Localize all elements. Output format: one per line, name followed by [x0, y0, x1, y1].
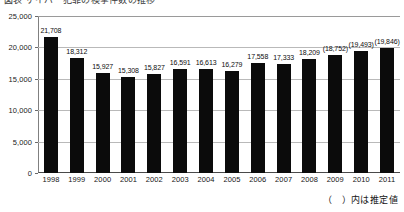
bar-slot: 16,613: [193, 16, 219, 173]
bar: [199, 69, 213, 173]
bar-value-label: 16,613: [196, 59, 217, 66]
bar-value-label: 16,591: [170, 59, 191, 66]
x-tick-label: 2004: [198, 175, 215, 184]
bar-value-label: 18,312: [66, 48, 87, 55]
bar-value-label: 16,279: [222, 61, 243, 68]
x-tick-label: 2009: [327, 175, 344, 184]
bar-slot: 17,558: [245, 16, 271, 173]
bar-value-label: (19,493): [349, 41, 374, 48]
x-tick-label: 2001: [120, 175, 137, 184]
bar-value-label: 15,827: [144, 64, 165, 71]
x-tick-label: 1999: [68, 175, 85, 184]
x-tick-label: 2007: [275, 175, 292, 184]
bar-slot: (19,493): [348, 16, 374, 173]
y-tick-label: 5,000: [0, 137, 32, 146]
x-tick-label: 2008: [301, 175, 318, 184]
x-axis-ticks: 1998199920002001200220032004200520062007…: [38, 175, 400, 189]
bar-value-label: 15,308: [118, 67, 139, 74]
bar-value-label: 18,209: [299, 49, 320, 56]
chart-title: 図表 サイバー犯罪の検挙件数の推移: [4, 0, 156, 6]
bar: [70, 58, 84, 173]
bar: [328, 55, 342, 173]
bar-value-label: (18,752): [323, 45, 348, 52]
bar-slot: 18,209: [297, 16, 323, 173]
bar-slot: 15,827: [141, 16, 167, 173]
bar: [302, 59, 316, 173]
bar-slot: 21,708: [38, 16, 64, 173]
chart-footnote: （ ）内は推定値: [323, 193, 398, 206]
chart-title-strip: 図表 サイバー犯罪の検挙件数の推移: [0, 0, 404, 7]
plot-area: 05,00010,00015,00020,00025,000 21,70818,…: [38, 16, 400, 173]
bar-series: 21,70818,31215,92715,30815,82716,59116,6…: [38, 16, 400, 173]
bar: [173, 69, 187, 173]
x-tick-label: 2006: [249, 175, 266, 184]
bar: [225, 71, 239, 173]
x-tick-label: 2000: [94, 175, 111, 184]
bar-value-label: 17,333: [273, 54, 294, 61]
bar-slot: 16,591: [167, 16, 193, 173]
bar: [44, 37, 58, 173]
bar: [147, 74, 161, 173]
bar-slot: 15,308: [116, 16, 142, 173]
bar: [354, 51, 368, 173]
x-tick-label: 2002: [146, 175, 163, 184]
x-tick-label: 2005: [223, 175, 240, 184]
bar: [96, 73, 110, 173]
y-tick-mark: [35, 173, 38, 174]
bar: [277, 64, 291, 173]
bar-slot: (19,846): [374, 16, 400, 173]
y-tick-label: 15,000: [0, 74, 32, 83]
bar: [380, 48, 394, 173]
bar-slot: 17,333: [271, 16, 297, 173]
bar: [121, 77, 135, 173]
bar-value-label: 15,927: [92, 63, 113, 70]
bar-slot: 18,312: [64, 16, 90, 173]
y-tick-label: 0: [0, 169, 32, 178]
x-tick-label: 1998: [42, 175, 59, 184]
bar-slot: 15,927: [90, 16, 116, 173]
x-tick-label: 2003: [172, 175, 189, 184]
bar-slot: 16,279: [219, 16, 245, 173]
bar-value-label: (19,846): [374, 38, 399, 45]
bar: [251, 63, 265, 173]
y-tick-label: 10,000: [0, 106, 32, 115]
bar-value-label: 17,558: [247, 53, 268, 60]
x-tick-label: 2011: [379, 175, 396, 184]
y-tick-label: 20,000: [0, 43, 32, 52]
bar-chart: 図表 サイバー犯罪の検挙件数の推移 05,00010,00015,00020,0…: [0, 0, 404, 212]
bar-slot: (18,752): [322, 16, 348, 173]
bar-value-label: 21,708: [41, 27, 62, 34]
x-tick-label: 2010: [353, 175, 370, 184]
y-tick-label: 25,000: [0, 12, 32, 21]
